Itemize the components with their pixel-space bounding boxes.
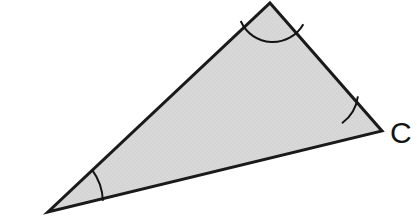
geometry-figure: C B — [0, 0, 417, 216]
vertex-label-c: C — [390, 116, 412, 149]
triangle-diagram-svg: C B — [0, 0, 417, 216]
vertex-label-b: B — [26, 212, 46, 216]
